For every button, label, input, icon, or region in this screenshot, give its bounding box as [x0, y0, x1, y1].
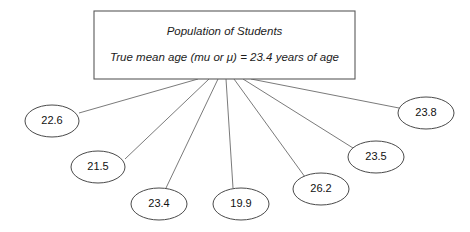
sample-ellipses-group: 22.621.523.419.926.223.523.8: [25, 97, 454, 220]
sample-mean-label: 21.5: [87, 160, 108, 172]
connector-line: [251, 79, 399, 108]
connector-line: [226, 79, 233, 188]
diagram-canvas: Population of Students True mean age (mu…: [0, 0, 470, 232]
population-title: Population of Students: [167, 25, 283, 37]
sample-mean-label: 22.6: [41, 114, 62, 126]
connector-line: [79, 79, 198, 113]
sample-mean-label: 23.8: [415, 106, 436, 118]
sample-mean-label: 23.5: [365, 150, 386, 162]
connector-line: [125, 79, 209, 159]
sample-mean-label: 26.2: [310, 182, 331, 194]
connector-line: [234, 79, 305, 177]
population-parameter-line: True mean age (mu or μ) = 23.4 years of …: [110, 51, 339, 63]
connector-lines-group: [79, 79, 399, 188]
sample-mean-label: 19.9: [230, 197, 251, 209]
population-box: [94, 11, 355, 79]
sampling-diagram: Population of Students True mean age (mu…: [0, 0, 470, 232]
sample-mean-label: 23.4: [148, 197, 169, 209]
